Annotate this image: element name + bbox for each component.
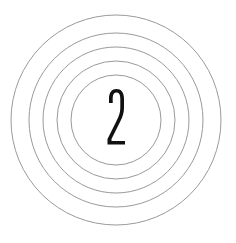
ring-3 (43, 47, 189, 193)
ring-5 (71, 75, 161, 165)
digit-two-glyph (108, 89, 126, 145)
concentric-rings-figure (0, 0, 236, 243)
rings-group (11, 15, 221, 225)
ring-2 (29, 33, 203, 207)
ring-4 (57, 61, 175, 179)
